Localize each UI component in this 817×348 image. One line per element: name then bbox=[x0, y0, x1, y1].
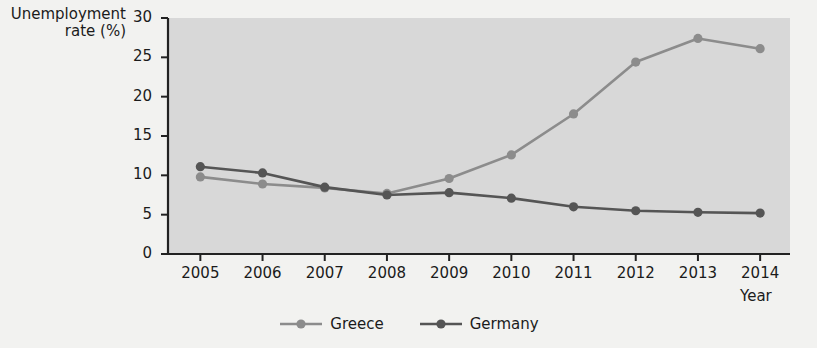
legend-label: Germany bbox=[470, 315, 539, 333]
legend-marker-icon bbox=[418, 316, 464, 332]
data-point-greece-2012 bbox=[631, 57, 640, 66]
x-tick-label: 2008 bbox=[357, 264, 417, 282]
data-point-germany-2009 bbox=[445, 188, 454, 197]
data-point-greece-2014 bbox=[756, 44, 765, 53]
legend-item-germany[interactable]: Germany bbox=[418, 315, 539, 333]
data-point-greece-2006 bbox=[258, 179, 267, 188]
y-tick-label: 15 bbox=[116, 126, 152, 144]
data-point-germany-2012 bbox=[631, 206, 640, 215]
data-point-greece-2013 bbox=[693, 34, 702, 43]
x-tick-label: 2007 bbox=[295, 264, 355, 282]
x-tick-label: 2006 bbox=[233, 264, 293, 282]
y-tick-label: 30 bbox=[116, 8, 152, 26]
y-tick-label: 10 bbox=[116, 165, 152, 183]
data-point-germany-2013 bbox=[693, 208, 702, 217]
y-tick-label: 20 bbox=[116, 87, 152, 105]
x-tick-label: 2013 bbox=[668, 264, 728, 282]
data-point-greece-2010 bbox=[507, 150, 516, 159]
data-point-germany-2008 bbox=[382, 190, 391, 199]
data-point-greece-2005 bbox=[196, 172, 205, 181]
data-point-greece-2011 bbox=[569, 109, 578, 118]
plot-area-background bbox=[168, 18, 790, 254]
legend-marker-icon bbox=[278, 316, 324, 332]
legend-label: Greece bbox=[330, 315, 383, 333]
y-tick-label: 5 bbox=[116, 205, 152, 223]
data-point-germany-2005 bbox=[196, 162, 205, 171]
y-tick-label: 0 bbox=[116, 244, 152, 262]
x-tick-label: 2011 bbox=[544, 264, 604, 282]
x-tick-label: 2012 bbox=[606, 264, 666, 282]
chart-legend: GreeceGermany bbox=[0, 315, 817, 333]
unemployment-rate-line-chart: Unemployment rate (%) Year 051015202530 … bbox=[0, 0, 817, 348]
x-tick-label: 2014 bbox=[730, 264, 790, 282]
data-point-germany-2014 bbox=[756, 208, 765, 217]
data-point-germany-2006 bbox=[258, 168, 267, 177]
data-point-germany-2007 bbox=[320, 183, 329, 192]
x-tick-label: 2010 bbox=[481, 264, 541, 282]
data-point-germany-2010 bbox=[507, 194, 516, 203]
data-point-greece-2009 bbox=[445, 174, 454, 183]
y-tick-label: 25 bbox=[116, 47, 152, 65]
legend-item-greece[interactable]: Greece bbox=[278, 315, 383, 333]
x-tick-label: 2005 bbox=[170, 264, 230, 282]
data-point-germany-2011 bbox=[569, 202, 578, 211]
x-tick-label: 2009 bbox=[419, 264, 479, 282]
